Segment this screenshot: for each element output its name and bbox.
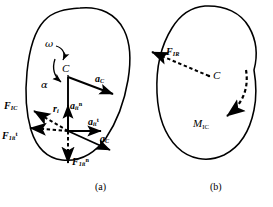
label-center-c-b: C: [213, 70, 220, 81]
label-f-1it-normal: F1itn: [72, 157, 89, 168]
rigid-body-outline-b: [157, 6, 256, 159]
caption-b: (b): [210, 182, 222, 192]
caption-a: (a): [95, 182, 106, 192]
label-a-it-normal: aitn: [70, 101, 82, 112]
figure-root: ω α C aC ri aitn aitt aC FIC F1itt F1itn…: [0, 0, 273, 207]
label-f-ir: FIR: [166, 47, 179, 58]
label-alpha: α: [41, 80, 48, 90]
resultant-inertia-moment-MIC: [227, 70, 247, 116]
label-omega: ω: [45, 39, 53, 49]
omega-curved-arrow: [56, 46, 64, 60]
figure-canvas: [0, 0, 273, 207]
label-center-c-a: C: [62, 63, 69, 74]
label-f-ic: FIC: [4, 101, 17, 112]
label-r-i: ri: [53, 104, 59, 115]
label-a-c-top: aC: [95, 74, 104, 85]
inertia-force-FIC: [34, 111, 68, 131]
label-a-it-tangential: aitt: [88, 117, 99, 128]
alpha-curved-arrow: [54, 59, 61, 82]
label-a-c-lower: aC: [100, 134, 109, 145]
acceleration-vector-aC-top: [68, 77, 113, 94]
label-f-1it-tangential: F1itt: [2, 131, 18, 142]
label-m-ic: MIC: [193, 118, 209, 130]
